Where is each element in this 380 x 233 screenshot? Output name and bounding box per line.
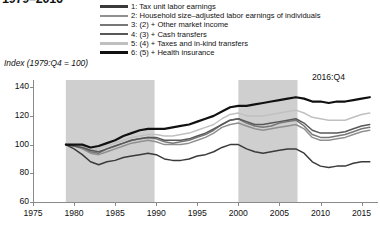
x-tick-label: 2005 — [262, 208, 296, 218]
y-tick-label: 140 — [7, 81, 29, 91]
legend-label-2: 2: Household size–adjusted labor earning… — [131, 11, 321, 20]
legend-swatch-5 — [100, 42, 128, 44]
y-tick-mark — [30, 116, 33, 117]
legend-item: 3: (2) + Other market income — [100, 20, 321, 29]
x-tick-label: 1990 — [139, 208, 173, 218]
plot-area — [33, 80, 378, 202]
x-tick-mark — [279, 203, 280, 206]
x-tick-label: 2015 — [345, 208, 379, 218]
y-axis-label: Index (1979:Q4 = 100) — [4, 58, 88, 68]
x-tick-label: 1975 — [16, 208, 50, 218]
x-tick-mark — [197, 203, 198, 206]
legend-swatch-2 — [100, 15, 128, 17]
x-tick-mark — [238, 203, 239, 206]
legend-label-3: 3: (2) + Other market income — [131, 20, 228, 29]
legend-swatch-4 — [100, 33, 128, 35]
legend-swatch-3 — [100, 24, 128, 26]
legend-label-6: 6: (5) + Health insurance — [131, 48, 214, 57]
x-tick-mark — [156, 203, 157, 206]
chart-legend: 1: Tax unit labor earnings 2: Household … — [100, 2, 321, 57]
legend-label-5: 5: (4) + Taxes and in-kind transfers — [131, 39, 248, 48]
chart-canvas — [33, 80, 378, 202]
x-tick-label: 1980 — [57, 208, 91, 218]
y-axis-line — [33, 80, 34, 202]
legend-item: 2: Household size–adjusted labor earning… — [100, 11, 321, 20]
x-axis-line — [33, 202, 378, 203]
legend-label-4: 4: (3) + Cash transfers — [131, 30, 207, 39]
x-tick-mark — [321, 203, 322, 206]
chart-figure: 1979–2016 1: Tax unit labor earnings 2: … — [0, 0, 380, 233]
page-title: 1979–2016 — [2, 0, 63, 6]
legend-swatch-1 — [100, 5, 128, 8]
y-tick-label: 100 — [7, 139, 29, 149]
legend-item: 5: (4) + Taxes and in-kind transfers — [100, 39, 321, 48]
legend-label-1: 1: Tax unit labor earnings — [131, 2, 216, 11]
legend-item: 1: Tax unit labor earnings — [100, 2, 321, 11]
x-tick-mark — [74, 203, 75, 206]
y-tick-mark — [30, 145, 33, 146]
x-tick-label: 1995 — [180, 208, 214, 218]
x-tick-mark — [362, 203, 363, 206]
x-tick-label: 1985 — [98, 208, 132, 218]
x-tick-label: 2010 — [304, 208, 338, 218]
legend-swatch-6 — [100, 51, 128, 54]
y-tick-label: 60 — [7, 196, 29, 206]
y-tick-label: 120 — [7, 110, 29, 120]
x-tick-label: 2000 — [221, 208, 255, 218]
y-tick-label: 80 — [7, 167, 29, 177]
legend-item: 6: (5) + Health insurance — [100, 48, 321, 57]
legend-item: 4: (3) + Cash transfers — [100, 30, 321, 39]
x-tick-mark — [115, 203, 116, 206]
y-tick-mark — [30, 173, 33, 174]
x-tick-mark — [33, 203, 34, 206]
y-tick-mark — [30, 87, 33, 88]
